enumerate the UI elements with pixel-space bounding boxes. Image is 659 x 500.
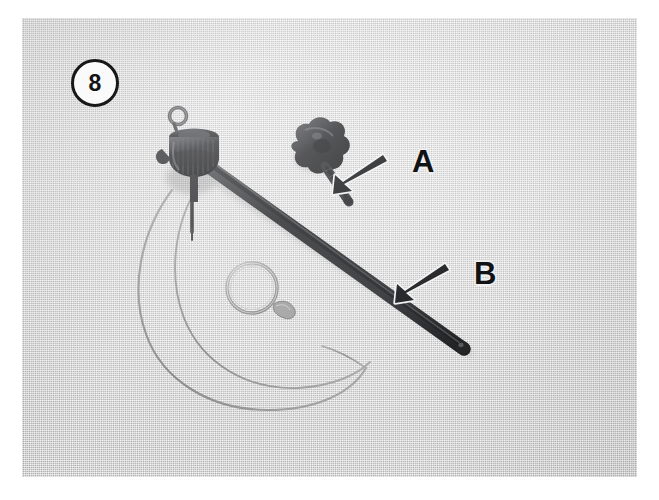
- figure-page: 8 A B: [0, 0, 659, 500]
- figure-number-badge: 8: [71, 59, 119, 107]
- figure-photograph: 8 A B: [22, 18, 637, 477]
- callout-label-b: A: [412, 146, 434, 177]
- cable-loop: [138, 186, 370, 410]
- callout-label-a: B: [474, 258, 496, 289]
- callout-arrow-a: [395, 264, 449, 303]
- split-ring: [227, 263, 295, 319]
- figure-number-label: 8: [89, 72, 102, 95]
